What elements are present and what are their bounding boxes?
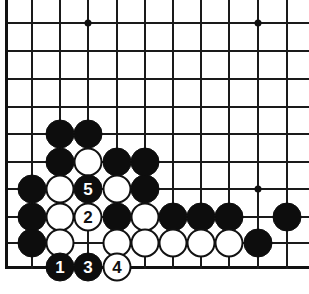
numbered-stone-black-5: 5 <box>74 175 103 204</box>
stone-black <box>103 203 132 232</box>
stone-black <box>46 148 75 177</box>
stone-black <box>131 148 160 177</box>
stone-white <box>131 229 160 258</box>
stone-white <box>74 148 103 177</box>
stone-black <box>273 203 302 232</box>
stone-black <box>159 203 188 232</box>
stone-white <box>187 229 216 258</box>
stone-black <box>215 203 244 232</box>
stone-black <box>46 120 75 149</box>
stone-black <box>18 175 47 204</box>
stone-black <box>74 120 103 149</box>
stone-number-label: 3 <box>83 258 92 275</box>
star-point <box>255 186 262 193</box>
numbered-stone-white-4: 4 <box>103 253 132 282</box>
stone-white <box>215 229 244 258</box>
star-point <box>255 20 262 27</box>
numbered-stone-black-1: 1 <box>46 253 75 282</box>
grid-line-vertical <box>5 0 8 269</box>
stone-black <box>187 203 216 232</box>
stone-white <box>159 229 188 258</box>
stone-black <box>103 148 132 177</box>
stone-black <box>131 175 160 204</box>
stone-white <box>103 175 132 204</box>
stone-black <box>244 229 273 258</box>
grid-line-horizontal <box>5 50 309 52</box>
stone-white <box>46 203 75 232</box>
star-point <box>85 20 92 27</box>
go-board-diagram: 52134 <box>0 0 309 294</box>
stone-number-label: 1 <box>55 258 64 275</box>
stone-black <box>18 203 47 232</box>
stone-white <box>131 203 160 232</box>
numbered-stone-black-3: 3 <box>74 253 103 282</box>
stone-number-label: 5 <box>83 180 92 197</box>
stone-white <box>46 175 75 204</box>
stone-number-label: 4 <box>112 258 121 275</box>
stone-black <box>18 229 47 258</box>
grid-line-horizontal <box>5 78 309 80</box>
grid-line-horizontal <box>5 22 309 24</box>
grid-line-horizontal <box>5 106 309 108</box>
stone-number-label: 2 <box>83 208 92 225</box>
numbered-stone-white-2: 2 <box>74 203 103 232</box>
